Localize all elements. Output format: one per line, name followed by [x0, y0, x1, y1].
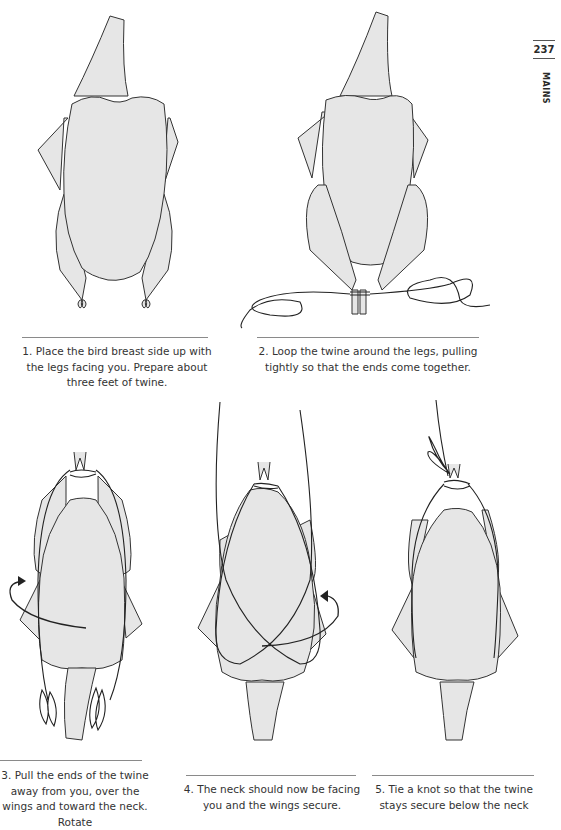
step-1-divider: [22, 337, 208, 338]
step-1-caption: 1. Place the bird breast side up with th…: [22, 344, 212, 391]
step-3-illustration: [0, 400, 190, 740]
chicken-untrussed-icon: [0, 0, 240, 330]
step-2-caption: 2. Loop the twine around the legs, pulli…: [254, 344, 482, 375]
chicken-legs-tied-icon: [230, 0, 500, 330]
step-4-caption: 4. The neck should now be facing you and…: [182, 782, 362, 813]
page-number-tab: 237: [527, 38, 561, 59]
step-3-caption: 3. Pull the ends of the twine away from …: [0, 768, 150, 830]
step-5-caption: 5. Tie a knot so that the twine stays se…: [364, 782, 544, 813]
step-3-divider: [0, 760, 142, 761]
step-2-divider: [257, 337, 479, 338]
section-label: MAINS: [541, 72, 550, 104]
chicken-crossed-twine-icon: [180, 400, 370, 740]
step-5-illustration: [370, 400, 561, 740]
step-4-divider: [186, 775, 356, 776]
chicken-trussed-icon: [370, 400, 561, 740]
step-4-illustration: [180, 400, 370, 740]
page-number: 237: [533, 40, 555, 59]
chicken-rotate-icon: [0, 400, 190, 740]
step-1-illustration: [0, 0, 240, 330]
step-5-divider: [372, 775, 534, 776]
step-2-illustration: [230, 0, 500, 330]
